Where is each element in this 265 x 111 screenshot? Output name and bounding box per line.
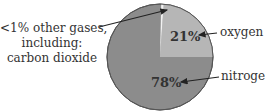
oxygen-percent-label: 21% bbox=[170, 29, 200, 44]
other-gases-line3: carbon dioxide bbox=[0, 51, 104, 66]
nitrogen-percent-label: 78% bbox=[151, 75, 181, 90]
oxygen-label: oxygen bbox=[220, 25, 263, 40]
other-gases-line1: <1% other gases, bbox=[0, 21, 104, 36]
other-gases-label: <1% other gases, including: carbon dioxi… bbox=[0, 21, 104, 66]
nitrogen-label: nitrogen bbox=[221, 69, 265, 84]
other-gases-line2: including: bbox=[0, 36, 104, 51]
